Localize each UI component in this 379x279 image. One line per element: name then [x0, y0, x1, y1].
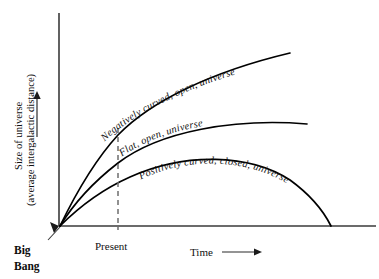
curve-negatively-curved-open [60, 53, 290, 226]
x-axis-label: Time [190, 246, 213, 258]
present-label: Present [95, 240, 127, 252]
big-bang-label-line2: Bang [14, 260, 40, 273]
big-bang-label-line1: Big [14, 244, 31, 257]
diagram-canvas: Negatively curved, open, universe Flat, … [0, 0, 379, 279]
big-bang-arrowhead-icon [50, 222, 59, 233]
right-arrow-icon [254, 248, 262, 255]
label-positively-curved-closed: Positively curved, closed, universe [136, 155, 291, 186]
cosmology-expansion-figure: Negatively curved, open, universe Flat, … [0, 0, 379, 279]
y-axis-label-line1: Size of universe [13, 101, 24, 170]
y-axis-label-line2: (average intergalactic distance) [25, 73, 37, 206]
curve-positively-curved-closed [60, 159, 331, 226]
